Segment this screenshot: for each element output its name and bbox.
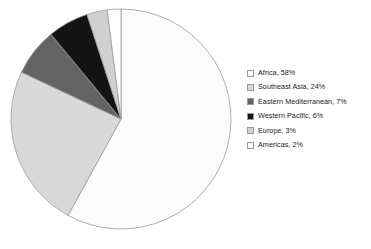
legend-swatch-icon <box>247 98 254 105</box>
legend-item[interactable]: Americas, 2% <box>247 138 369 152</box>
legend-swatch-icon <box>247 70 254 77</box>
pie-plot-area <box>0 0 244 249</box>
legend-item[interactable]: Southeast Asia, 24% <box>247 80 369 94</box>
pie-chart-figure: Africa, 58%Southeast Asia, 24%Eastern Me… <box>0 0 371 249</box>
legend-item-label: Eastern Mediterranean, 7% <box>258 95 347 109</box>
legend-swatch-icon <box>247 142 254 149</box>
legend-item-label: Southeast Asia, 24% <box>258 80 325 94</box>
legend-swatch-icon <box>247 84 254 91</box>
pie-slice-group <box>11 9 231 229</box>
legend-item[interactable]: Eastern Mediterranean, 7% <box>247 95 369 109</box>
legend-item-label: Americas, 2% <box>258 138 303 152</box>
pie-svg <box>0 0 244 249</box>
legend-item-label: Western Pacific, 6% <box>258 109 323 123</box>
legend-item-label: Africa, 58% <box>258 66 295 80</box>
legend-item[interactable]: Western Pacific, 6% <box>247 109 369 123</box>
legend-swatch-icon <box>247 127 254 134</box>
chart-legend: Africa, 58%Southeast Asia, 24%Eastern Me… <box>247 66 369 152</box>
legend-swatch-icon <box>247 113 254 120</box>
legend-item-label: Europe, 3% <box>258 124 296 138</box>
legend-item[interactable]: Africa, 58% <box>247 66 369 80</box>
legend-item[interactable]: Europe, 3% <box>247 124 369 138</box>
